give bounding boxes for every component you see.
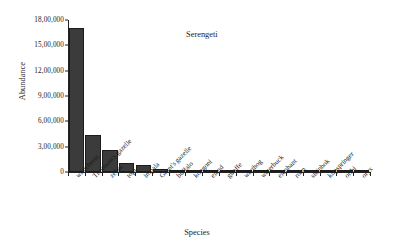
- y-tick-label: 0: [60, 168, 64, 176]
- y-tick-label: 9,00,000: [38, 92, 64, 100]
- y-tick-label: 6,00,000: [38, 117, 64, 125]
- y-axis-title: Abundance: [18, 62, 27, 100]
- plot-area: 03,00,0006,00,0009,00,00012,00,00015,00,…: [68, 20, 370, 172]
- bar: [69, 28, 84, 172]
- bar-series: [68, 20, 370, 172]
- chart-figure: Serengeti Abundance 03,00,0006,00,0009,0…: [0, 0, 394, 251]
- x-axis-title: Species: [0, 228, 394, 237]
- y-tick-label: 15,00,000: [34, 41, 64, 49]
- y-tick-label: 18,00,000: [34, 16, 64, 24]
- y-tick-label: 12,00,000: [34, 67, 64, 75]
- x-tick-mark: [68, 172, 69, 176]
- y-tick-label: 3,00,000: [38, 143, 64, 151]
